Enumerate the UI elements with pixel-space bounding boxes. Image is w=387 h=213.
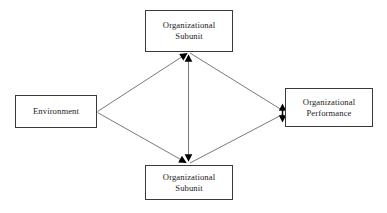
diagram-canvas: Organizational Subunit Environment Organ… bbox=[0, 0, 387, 213]
node-environment-label: Environment bbox=[31, 106, 81, 117]
node-organizational-performance-label: Organizational Performance bbox=[301, 97, 357, 119]
node-top-subunit-label: Organizational Subunit bbox=[161, 20, 217, 42]
connector-environment-to-bottom-subunit bbox=[98, 113, 187, 163]
connector-bottom-subunit-to-performance bbox=[190, 114, 284, 163]
node-organizational-performance[interactable]: Organizational Performance bbox=[285, 88, 373, 127]
connector-environment-to-top-subunit bbox=[98, 54, 188, 112]
connector-top-subunit-to-performance bbox=[190, 53, 284, 111]
node-bottom-subunit[interactable]: Organizational Subunit bbox=[145, 165, 233, 200]
node-environment[interactable]: Environment bbox=[15, 95, 97, 128]
node-top-subunit[interactable]: Organizational Subunit bbox=[145, 10, 233, 52]
node-bottom-subunit-label: Organizational Subunit bbox=[161, 172, 217, 194]
